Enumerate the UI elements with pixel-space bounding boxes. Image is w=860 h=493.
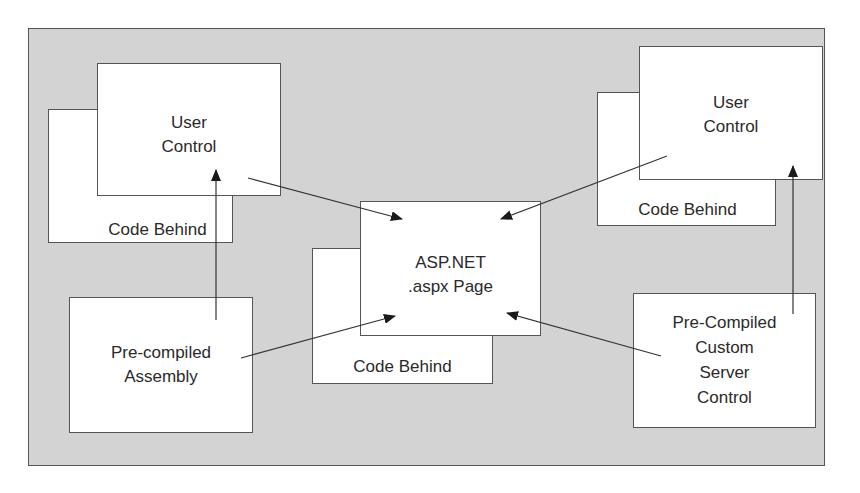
left-code-behind-label: Code Behind bbox=[85, 219, 230, 240]
precompiled-assembly-line1: Pre-compiled bbox=[70, 342, 252, 363]
aspx-page-line2: .aspx Page bbox=[361, 276, 540, 297]
center-code-behind-label: Code Behind bbox=[313, 356, 492, 377]
custom-server-control-line3: Server bbox=[634, 362, 815, 383]
custom-server-control-line4: Control bbox=[634, 387, 815, 408]
aspx-page-box: ASP.NET .aspx Page bbox=[360, 201, 541, 336]
left-user-control-line1: User bbox=[98, 112, 280, 133]
left-user-control-line2: Control bbox=[98, 136, 280, 157]
precompiled-assembly-box: Pre-compiled Assembly bbox=[69, 297, 253, 433]
custom-server-control-line2: Custom bbox=[634, 337, 815, 358]
aspx-page-line1: ASP.NET bbox=[361, 252, 540, 273]
left-user-control-box: User Control bbox=[97, 63, 281, 196]
right-user-control-line2: Control bbox=[640, 116, 822, 137]
right-user-control-line1: User bbox=[640, 92, 822, 113]
custom-server-control-box: Pre-Compiled Custom Server Control bbox=[633, 293, 816, 428]
right-code-behind-label: Code Behind bbox=[620, 199, 755, 220]
custom-server-control-line1: Pre-Compiled bbox=[634, 312, 815, 333]
right-user-control-box: User Control bbox=[639, 46, 823, 180]
precompiled-assembly-line2: Assembly bbox=[70, 366, 252, 387]
